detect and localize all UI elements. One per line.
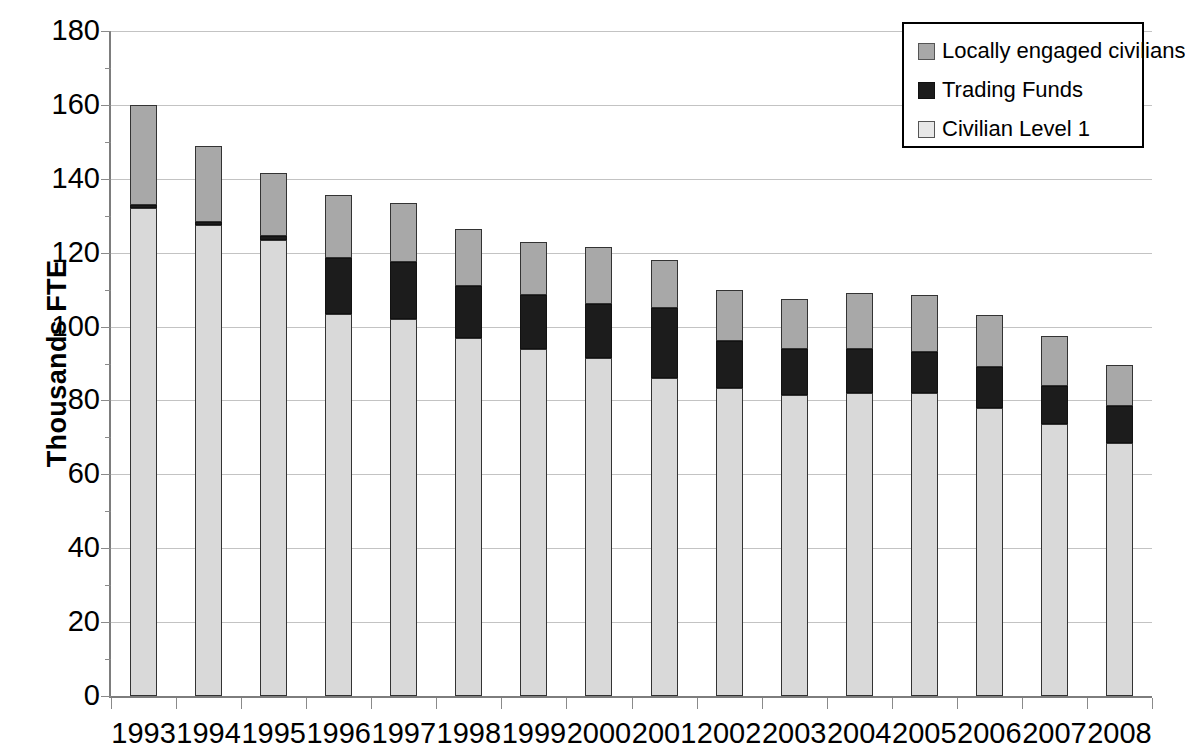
- bar-segment-locally-engaged-civilians: [390, 203, 417, 262]
- bar-segment-locally-engaged-civilians: [716, 290, 743, 342]
- x-axis-tick-mark: [436, 698, 437, 709]
- y-axis-tick-label: 60: [28, 459, 100, 488]
- x-axis-tick-label: 2002: [697, 719, 762, 747]
- x-axis-tick-mark: [566, 698, 567, 709]
- bar-segment-trading-funds: [520, 295, 547, 349]
- y-axis-minor-tick-mark: [105, 290, 111, 291]
- y-axis-tick-mark: [101, 548, 111, 549]
- legend-swatch-trading-funds: [918, 82, 935, 99]
- bar-segment-trading-funds: [976, 367, 1003, 408]
- y-axis-tick-label: 160: [28, 90, 100, 119]
- bar-segment-civilian-level-1: [455, 338, 482, 696]
- bar-segment-civilian-level-1: [390, 319, 417, 696]
- bar-segment-locally-engaged-civilians: [455, 229, 482, 286]
- y-axis-tick-mark: [101, 622, 111, 623]
- bar-segment-civilian-level-1: [976, 408, 1003, 696]
- bar-segment-trading-funds: [846, 349, 873, 393]
- bar-segment-locally-engaged-civilians: [1106, 365, 1133, 406]
- bar-segment-locally-engaged-civilians: [911, 295, 938, 352]
- bar-segment-civilian-level-1: [846, 393, 873, 696]
- bar-segment-trading-funds: [455, 286, 482, 338]
- bar-segment-civilian-level-1: [1106, 443, 1133, 696]
- y-axis-minor-tick-mark: [105, 364, 111, 365]
- x-axis-tick-label: 2005: [892, 719, 957, 747]
- x-axis-tick-label: 1998: [436, 719, 501, 747]
- x-axis-tick-mark: [501, 698, 502, 709]
- y-axis-tick-mark: [101, 400, 111, 401]
- y-axis-tick-mark: [101, 474, 111, 475]
- legend-item[interactable]: Locally engaged civilians: [918, 38, 1185, 64]
- x-axis-tick-label: 2001: [632, 719, 697, 747]
- y-axis-tick-label: 140: [28, 164, 100, 193]
- bar-segment-trading-funds: [130, 205, 157, 208]
- legend-item-label: Trading Funds: [942, 79, 1083, 101]
- x-axis-tick-mark: [827, 698, 828, 709]
- x-axis-tick-label: 1994: [176, 719, 241, 747]
- bar-segment-civilian-level-1: [325, 314, 352, 696]
- x-axis-tick-label: 1993: [111, 719, 176, 747]
- bar-segment-locally-engaged-civilians: [781, 299, 808, 349]
- bar-segment-trading-funds: [781, 349, 808, 395]
- x-axis-tick-label: 1997: [371, 719, 436, 747]
- y-axis-minor-tick-mark: [105, 511, 111, 512]
- bar-segment-locally-engaged-civilians: [325, 195, 352, 258]
- bar-segment-civilian-level-1: [260, 240, 287, 696]
- bar-segment-civilian-level-1: [781, 395, 808, 696]
- x-axis-tick-mark: [632, 698, 633, 709]
- bar-segment-civilian-level-1: [130, 208, 157, 696]
- bar-segment-trading-funds: [911, 352, 938, 393]
- bar-segment-trading-funds: [1106, 406, 1133, 443]
- y-axis-minor-tick-mark: [105, 68, 111, 69]
- y-axis-tick-mark: [101, 31, 111, 32]
- y-axis-tick-label: 40: [28, 533, 100, 562]
- bar-segment-locally-engaged-civilians: [1041, 336, 1068, 386]
- x-axis-tick-mark: [1087, 698, 1088, 709]
- bar-segment-locally-engaged-civilians: [520, 242, 547, 296]
- y-axis-tick-mark: [101, 696, 111, 697]
- y-axis-tick-labels: 020406080100120140160180: [10, 0, 100, 747]
- legend-item[interactable]: Trading Funds: [918, 77, 1083, 103]
- bar-segment-trading-funds: [390, 262, 417, 319]
- bar-segment-locally-engaged-civilians: [260, 173, 287, 236]
- x-axis-tick-mark: [241, 698, 242, 709]
- legend-item[interactable]: Civilian Level 1: [918, 116, 1090, 142]
- bar-segment-locally-engaged-civilians: [195, 146, 222, 222]
- x-axis-tick-mark: [306, 698, 307, 709]
- bar-segment-civilian-level-1: [520, 349, 547, 696]
- y-axis-tick-label: 180: [28, 16, 100, 45]
- bar-segment-civilian-level-1: [585, 358, 612, 696]
- x-axis-line: [109, 696, 1152, 698]
- bar-segment-locally-engaged-civilians: [846, 293, 873, 348]
- legend-item-label: Civilian Level 1: [942, 118, 1090, 140]
- bar-segment-trading-funds: [716, 341, 743, 387]
- bar-segment-locally-engaged-civilians: [976, 315, 1003, 367]
- bar-segment-trading-funds: [325, 258, 352, 313]
- y-axis-line: [109, 31, 111, 698]
- bar-segment-trading-funds: [1041, 386, 1068, 425]
- x-axis-tick-mark: [697, 698, 698, 709]
- y-axis-minor-tick-mark: [105, 585, 111, 586]
- y-axis-tick-mark: [101, 253, 111, 254]
- y-axis-minor-tick-mark: [105, 216, 111, 217]
- y-axis-tick-label: 120: [28, 238, 100, 267]
- y-axis-minor-tick-mark: [105, 142, 111, 143]
- x-axis-tick-label: 2006: [957, 719, 1022, 747]
- x-axis-tick-mark: [762, 698, 763, 709]
- y-axis-minor-tick-mark: [105, 437, 111, 438]
- bar-segment-civilian-level-1: [651, 378, 678, 696]
- legend-swatch-civilian-level-1: [918, 121, 935, 138]
- y-axis-tick-label: 20: [28, 607, 100, 636]
- bar-segment-locally-engaged-civilians: [651, 260, 678, 308]
- chart-legend: Locally engaged civiliansTrading FundsCi…: [902, 22, 1144, 148]
- bar-segment-civilian-level-1: [911, 393, 938, 696]
- x-axis-tick-label: 2003: [762, 719, 827, 747]
- x-axis-tick-label: 2000: [566, 719, 631, 747]
- bar-segment-civilian-level-1: [195, 225, 222, 696]
- x-axis-tick-label: 1999: [501, 719, 566, 747]
- bar-segment-civilian-level-1: [716, 388, 743, 696]
- bar-segment-trading-funds: [260, 236, 287, 240]
- bar-segment-locally-engaged-civilians: [130, 105, 157, 205]
- legend-item-label: Locally engaged civilians: [942, 40, 1185, 62]
- x-axis-tick-mark: [957, 698, 958, 709]
